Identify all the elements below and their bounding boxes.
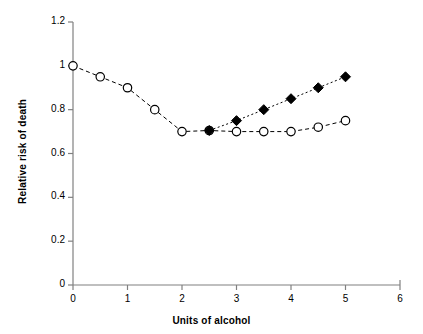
x-tick-label: 6 (385, 293, 415, 304)
data-point-open-circle (69, 62, 77, 70)
y-tick-label: 1.2 (31, 15, 65, 26)
data-point-filled-diamond (232, 116, 242, 126)
x-tick-label: 3 (222, 293, 252, 304)
y-tick-label: 0.8 (31, 103, 65, 114)
data-point-open-circle (260, 127, 268, 135)
data-point-filled-diamond (259, 105, 269, 115)
data-point-open-circle (151, 105, 159, 113)
y-axis-title: Relative risk of death (17, 77, 28, 227)
data-point-open-circle (287, 127, 295, 135)
y-tick-label: 1 (31, 59, 65, 70)
x-axis-title: Units of alcohol (0, 315, 423, 326)
x-tick-label: 1 (113, 293, 143, 304)
data-point-open-circle (96, 73, 104, 81)
series-line-open-circle-series (73, 66, 346, 132)
x-tick-label: 0 (58, 293, 88, 304)
data-point-filled-diamond (341, 72, 351, 82)
y-tick-label: 0 (31, 278, 65, 289)
series-line-filled-diamond-series (209, 77, 345, 131)
data-point-filled-diamond (313, 83, 323, 93)
data-point-filled-diamond (286, 94, 296, 104)
data-point-filled-diamond (204, 125, 214, 135)
data-point-open-circle (123, 84, 131, 92)
chart-container: Units of alcohol Relative risk of death … (0, 0, 423, 334)
data-point-open-circle (341, 116, 349, 124)
data-point-open-circle (314, 123, 322, 131)
x-tick-label: 4 (276, 293, 306, 304)
data-point-open-circle (178, 127, 186, 135)
data-point-open-circle (232, 127, 240, 135)
x-tick-label: 2 (167, 293, 197, 304)
x-tick-label: 5 (331, 293, 361, 304)
y-tick-label: 0.6 (31, 147, 65, 158)
y-tick-label: 0.4 (31, 190, 65, 201)
y-tick-label: 0.2 (31, 234, 65, 245)
